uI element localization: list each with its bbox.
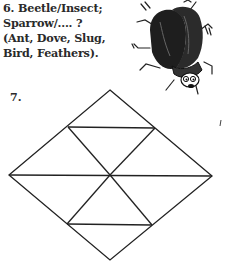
cropped-mark bbox=[220, 120, 221, 126]
upper-right-diagonal bbox=[110, 128, 155, 175]
diamond-figure bbox=[0, 0, 231, 264]
lower-horizontal-line bbox=[67, 224, 152, 225]
lower-left-diagonal bbox=[67, 175, 110, 224]
lower-right-diagonal bbox=[110, 175, 152, 225]
upper-left-diagonal bbox=[68, 127, 110, 175]
upper-horizontal-line bbox=[68, 127, 155, 128]
